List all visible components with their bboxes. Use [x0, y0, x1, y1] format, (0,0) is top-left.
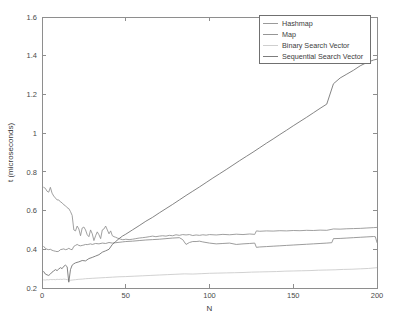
legend-label[interactable]: Binary Search Vector: [282, 41, 350, 50]
y-tick-label: 0.6: [27, 206, 37, 215]
series-line-hashmap: [44, 187, 377, 240]
y-tick-label: 1: [33, 129, 37, 138]
line-chart: 0.20.40.60.811.21.41.6 050100150200 N t …: [0, 0, 400, 320]
series-lines: [44, 59, 377, 282]
x-axis-title: N: [207, 304, 213, 313]
legend-label[interactable]: Map: [282, 30, 296, 39]
x-tick-label: 0: [40, 291, 44, 300]
y-tick-label: 0.2: [27, 284, 37, 293]
y-tick-label: 1.6: [27, 13, 37, 22]
chart-legend[interactable]: HashmapMapBinary Search VectorSequential…: [259, 15, 370, 63]
y-axis-title: t (microseconds): [6, 123, 15, 182]
chart-figure: 0.20.40.60.811.21.41.6 050100150200 N t …: [0, 0, 400, 320]
legend-label[interactable]: Sequential Search Vector: [282, 52, 364, 61]
y-tick-label: 1.2: [27, 90, 37, 99]
x-tick-label: 150: [287, 291, 300, 300]
x-tick-label: 100: [203, 291, 216, 300]
x-tick-label: 50: [122, 291, 130, 300]
y-tick-label: 0.4: [27, 245, 37, 254]
series-line-binary-search-vector: [44, 268, 377, 281]
y-tick-label: 0.8: [27, 168, 37, 177]
series-line-sequential-search-vector: [44, 59, 377, 282]
y-tick-label: 1.4: [27, 51, 37, 60]
x-tick-label: 200: [371, 291, 384, 300]
legend-label[interactable]: Hashmap: [282, 19, 313, 28]
